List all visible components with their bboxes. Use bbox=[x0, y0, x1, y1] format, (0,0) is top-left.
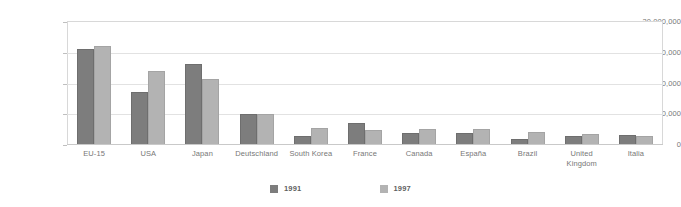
x-axis-tick-label: Brazil bbox=[500, 149, 554, 159]
bar-1997 bbox=[148, 71, 165, 145]
bar-group bbox=[237, 22, 277, 145]
x-axis-tick-label: Italia bbox=[609, 149, 663, 159]
bar-1997 bbox=[311, 128, 328, 145]
x-axis-baseline bbox=[67, 144, 663, 145]
legend-label: 1991 bbox=[284, 184, 302, 193]
bar-chart: 20,000,00015,000,00010,000,0005,000,0000… bbox=[0, 0, 681, 207]
bar-group bbox=[399, 22, 439, 145]
bar-group bbox=[508, 22, 548, 145]
x-axis-tick-label: Canada bbox=[392, 149, 446, 159]
bar-group bbox=[345, 22, 385, 145]
bar-1991 bbox=[240, 114, 257, 145]
bar-1991 bbox=[348, 123, 365, 145]
bar-1997 bbox=[94, 46, 111, 145]
legend-swatch-icon bbox=[380, 185, 388, 193]
bar-1991 bbox=[77, 49, 94, 145]
bar-group bbox=[562, 22, 602, 145]
x-axis-tick-label: United Kingdom bbox=[555, 149, 609, 169]
bar-1997 bbox=[202, 79, 219, 145]
y-axis-tick-mark bbox=[63, 145, 67, 146]
legend: 19911997 bbox=[0, 184, 681, 193]
bar-1991 bbox=[185, 64, 202, 145]
bar-group bbox=[182, 22, 222, 145]
bar-group bbox=[128, 22, 168, 145]
legend-label: 1997 bbox=[394, 184, 412, 193]
x-axis-tick-label: USA bbox=[121, 149, 175, 159]
x-axis-tick-label: Japan bbox=[175, 149, 229, 159]
bar-group bbox=[291, 22, 331, 145]
bar-group bbox=[74, 22, 114, 145]
legend-entry-1997[interactable]: 1997 bbox=[380, 184, 412, 193]
x-axis-tick-label: South Korea bbox=[284, 149, 338, 159]
x-axis-tick-label: España bbox=[446, 149, 500, 159]
bar-group bbox=[616, 22, 656, 145]
legend-entry-1991[interactable]: 1991 bbox=[270, 184, 302, 193]
bar-group bbox=[453, 22, 493, 145]
x-axis-tick-label: EU-15 bbox=[67, 149, 121, 159]
bar-1997 bbox=[365, 130, 382, 145]
bar-1991 bbox=[131, 92, 148, 146]
x-axis-tick-label: Deutschland bbox=[230, 149, 284, 159]
legend-swatch-icon bbox=[270, 185, 278, 193]
bar-1997 bbox=[257, 114, 274, 145]
bar-1997 bbox=[473, 129, 490, 145]
x-axis-tick-label: France bbox=[338, 149, 392, 159]
bar-1997 bbox=[419, 129, 436, 145]
